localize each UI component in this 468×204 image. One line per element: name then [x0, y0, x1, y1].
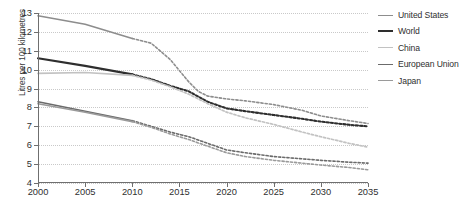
y-axis-line	[38, 13, 39, 183]
y-tick	[34, 89, 38, 90]
legend-item-world[interactable]: World	[378, 26, 459, 36]
series-line-historical-3	[38, 102, 132, 121]
legend-label: World	[398, 26, 420, 36]
y-tick-label: 9	[27, 84, 32, 94]
x-tick-label: 2010	[122, 187, 143, 197]
y-tick	[34, 107, 38, 108]
y-tick-label: 12	[22, 27, 32, 37]
legend-item-japan[interactable]: Japan	[378, 76, 459, 86]
series-line-historical-4	[38, 104, 132, 122]
legend-item-united-states[interactable]: United States	[378, 10, 459, 20]
x-tick-label: 2030	[311, 187, 332, 197]
series-line-projection-4	[132, 122, 368, 170]
chart-legend: United StatesWorldChinaEuropean UnionJap…	[378, 10, 459, 86]
legend-swatch-icon	[378, 47, 393, 48]
y-tick	[34, 13, 38, 14]
y-tick-label: 5	[27, 159, 32, 169]
legend-label: United States	[398, 10, 448, 20]
legend-swatch-icon	[378, 15, 393, 16]
gridline	[38, 183, 368, 184]
legend-label: European Union	[398, 59, 459, 69]
series-line-historical-0	[38, 16, 132, 39]
y-tick	[34, 51, 38, 52]
y-tick-label: 10	[22, 65, 32, 75]
fuel-economy-line-chart: Litres per 100 kilometres 45678910111213…	[0, 0, 468, 204]
plot-area: 45678910111213 2000200520102015202020252…	[38, 13, 368, 183]
y-tick	[34, 126, 38, 127]
legend-item-european-union[interactable]: European Union	[378, 59, 459, 69]
legend-label: Japan	[398, 76, 421, 86]
y-tick	[34, 164, 38, 165]
y-tick-label: 8	[27, 102, 32, 112]
legend-label: China	[398, 43, 420, 53]
y-tick-label: 13	[22, 8, 32, 18]
series-line-projection-0	[132, 39, 368, 124]
x-tick-label: 2020	[216, 187, 237, 197]
y-tick-label: 7	[27, 121, 32, 131]
x-tick-label: 2025	[263, 187, 284, 197]
x-tick-label: 2005	[75, 187, 96, 197]
legend-swatch-icon	[378, 64, 393, 65]
legend-swatch-icon	[378, 30, 393, 32]
y-tick	[34, 145, 38, 146]
series-lines	[38, 13, 368, 183]
x-tick-label: 2015	[169, 187, 190, 197]
y-tick	[34, 32, 38, 33]
legend-item-china[interactable]: China	[378, 43, 459, 53]
x-tick-label: 2035	[358, 187, 379, 197]
y-tick	[34, 70, 38, 71]
y-tick-label: 6	[27, 140, 32, 150]
series-line-historical-2	[38, 73, 132, 76]
y-tick-label: 11	[22, 46, 32, 56]
legend-swatch-icon	[378, 80, 393, 81]
x-axis-line	[38, 182, 368, 183]
x-tick-label: 2000	[28, 187, 49, 197]
